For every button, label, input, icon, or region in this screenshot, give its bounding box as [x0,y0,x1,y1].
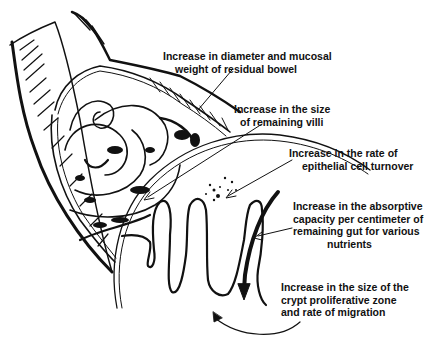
label-line: Increase in the size of the [281,281,409,294]
label-line: Increase in the absorptive [293,200,423,213]
shed-cells [205,177,237,201]
label-line: weight of residual bowel [163,63,332,76]
label-turnover: Increase in the rate of epithelial cell … [289,147,413,172]
label-line: Increase in diameter and mucosal [163,50,332,63]
label-diameter: Increase in diameter and mucosal weight … [163,50,332,75]
label-line: remaining gut for various [293,225,423,238]
label-line: epithelial cell turnover [289,160,413,173]
label-line: capacity per centimeter of [293,213,423,226]
leader-turnover [228,160,292,196]
label-absorptive: Increase in the absorptive capacity per … [293,200,423,250]
mucosal-folds [65,101,195,240]
label-line: nutrients [293,238,423,251]
label-villi: Increase in the size of remaining villi [234,103,330,128]
label-line: of remaining villi [234,116,330,129]
diagram-stage: Increase in diameter and mucosal weight … [0,0,444,342]
label-line: and rate of migration [281,306,409,319]
label-line: crypt proliferative zone [281,294,409,307]
label-line: Increase in the size [234,103,330,116]
leader-lines [144,70,292,240]
label-crypt: Increase in the size of the crypt prolif… [281,281,409,319]
label-line: Increase in the rate of [289,147,413,160]
